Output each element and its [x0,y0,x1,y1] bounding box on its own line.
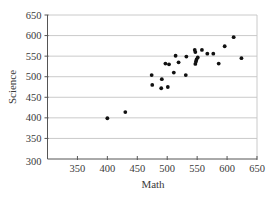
data-point [184,73,188,77]
data-point [164,62,168,66]
data-point [200,48,204,52]
x-tick-label: 650 [249,163,265,174]
scatter-chart: 300350400450500550600650 350400450500550… [0,0,271,198]
data-point [205,52,209,56]
y-tick-label: 600 [26,30,42,41]
x-tick-label: 550 [189,163,205,174]
y-tick-label: 650 [26,10,42,21]
y-tick-label: 350 [26,133,42,144]
y-tick-label: 550 [26,51,42,62]
data-point [123,110,127,114]
y-tick-label: 300 [26,156,42,167]
data-point [196,55,200,59]
data-points [105,35,243,120]
data-point [150,83,154,87]
y-axis-label: Science [6,70,18,104]
data-point [150,73,154,77]
data-point [166,85,170,89]
data-point [174,54,178,58]
x-tick-label: 450 [129,163,145,174]
data-point [184,55,188,59]
data-point [167,62,171,66]
x-tick-label: 600 [219,163,235,174]
data-point [211,52,215,56]
x-tick-label: 400 [99,163,115,174]
data-point [232,35,236,39]
data-point [172,71,176,75]
x-axis-label: Math [141,178,165,190]
x-tick-label: 500 [159,163,175,174]
data-point [217,62,221,66]
data-point [223,44,227,48]
plot-frame [48,15,258,159]
y-tick-label: 400 [26,112,42,123]
data-point [193,50,197,54]
data-point [177,60,181,64]
y-axis-ticks: 300350400450500550600650 [26,10,49,168]
data-point [105,116,109,120]
data-point [160,77,164,81]
y-tick-label: 500 [26,71,42,82]
data-point [240,56,244,60]
data-point [159,86,163,90]
y-tick-label: 450 [26,92,42,103]
x-tick-label: 350 [70,163,86,174]
